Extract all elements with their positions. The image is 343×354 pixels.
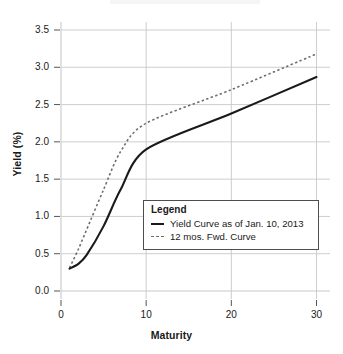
vertical-gridlines: [61, 22, 317, 299]
plot-canvas: [0, 0, 343, 354]
y-tick-label: 3.0: [15, 61, 49, 72]
x-axis-title: Maturity: [0, 329, 343, 341]
y-tick-label: 0.5: [15, 248, 49, 259]
legend-item-label: 12 mos. Fwd. Curve: [170, 231, 256, 243]
y-tick-label: 1.0: [15, 210, 49, 221]
x-tick-label: 10: [131, 309, 161, 320]
legend-item-yield-curve: Yield Curve as of Jan. 10, 2013: [151, 217, 312, 230]
x-tick-label: 20: [216, 309, 246, 320]
legend-title: Legend: [151, 204, 312, 216]
y-tick-label: 1.5: [15, 173, 49, 184]
x-tick-label: 0: [46, 309, 76, 320]
x-tick-label: 30: [302, 309, 332, 320]
legend-dashed-line-icon: [151, 232, 166, 242]
y-tick-label: 2.0: [15, 136, 49, 147]
legend-box: Legend Yield Curve as of Jan. 10, 2013 1…: [143, 200, 319, 250]
y-tick-label: 2.5: [15, 99, 49, 110]
legend-item-label: Yield Curve as of Jan. 10, 2013: [170, 218, 304, 230]
legend-item-forward-curve: 12 mos. Fwd. Curve: [151, 230, 312, 243]
yield-curve-chart: Yield (%) Maturity 0.00.51.01.52.02.53.0…: [0, 0, 343, 354]
y-tick-label: 0.0: [15, 285, 49, 296]
y-tick-label: 3.5: [15, 24, 49, 35]
horizontal-gridlines: [61, 30, 330, 291]
axis-tick-marks: [54, 30, 317, 306]
legend-solid-line-icon: [151, 219, 166, 229]
